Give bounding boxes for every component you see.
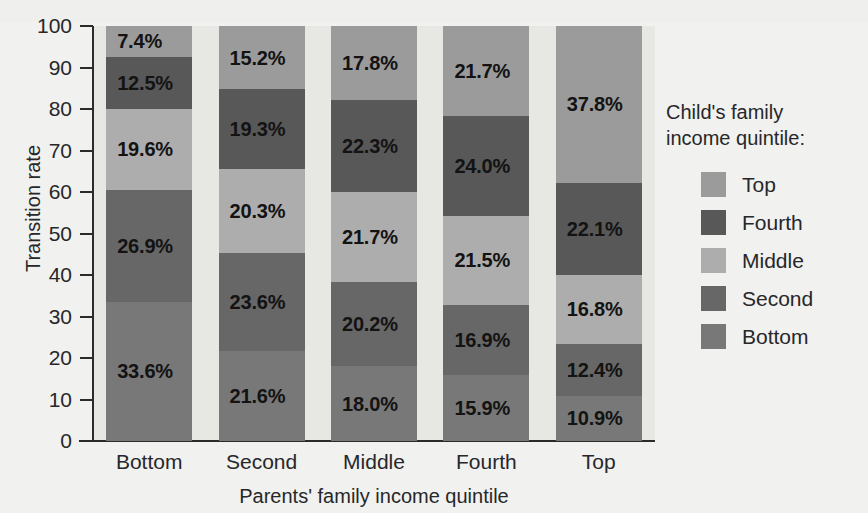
bar-segment-value-label: 22.3% <box>342 135 398 158</box>
x-axis-category-label: Fourth <box>430 450 542 474</box>
y-axis-tick <box>80 440 93 442</box>
bar-segment-value-label: 26.9% <box>117 234 173 257</box>
y-axis-tick <box>80 108 93 110</box>
bar-group: 17.8%22.3%21.7%20.2%18.0% <box>331 26 417 441</box>
y-axis-tick-label-wrap: 90 <box>20 57 72 79</box>
bar-segment-value-label: 12.4% <box>567 359 623 382</box>
y-axis-tick-label: 10 <box>28 389 72 410</box>
bar-segment-value-label: 16.9% <box>454 328 510 351</box>
bar-segment[interactable]: 16.8% <box>556 275 642 345</box>
bar-segment-value-label: 37.8% <box>567 93 623 116</box>
legend-entries: TopFourthMiddleSecondBottom <box>666 165 862 355</box>
y-axis-tick <box>80 67 93 69</box>
x-axis-category-label: Second <box>205 450 317 474</box>
bar-segment[interactable]: 21.6% <box>219 351 305 441</box>
legend-item-label: Fourth <box>742 212 803 233</box>
bar-segment-value-label: 10.9% <box>567 407 623 430</box>
y-axis-tick-label-wrap: 30 <box>20 306 72 328</box>
bar-segment[interactable]: 7.4% <box>106 26 192 57</box>
bar-segment-value-label: 20.3% <box>230 200 286 223</box>
bar-segment-value-label: 24.0% <box>454 154 510 177</box>
bar-segment[interactable]: 15.9% <box>443 375 529 441</box>
y-axis-tick <box>80 25 93 27</box>
bar-segment[interactable]: 17.8% <box>331 26 417 100</box>
y-axis-tick-label-wrap: 0 <box>20 430 72 452</box>
bar-segment-value-label: 12.5% <box>117 71 173 94</box>
bar-segment[interactable]: 21.7% <box>443 26 529 116</box>
legend-item-label: Bottom <box>742 326 809 347</box>
bar-segment-value-label: 22.1% <box>567 217 623 240</box>
y-axis-tick-label-wrap: 100 <box>20 15 72 37</box>
scan-bleed-artifact <box>0 0 868 22</box>
bar-segment[interactable]: 10.9% <box>556 396 642 441</box>
y-axis-tick-label: 20 <box>28 347 72 368</box>
y-axis-tick-label: 30 <box>28 306 72 327</box>
bar-segment-value-label: 20.2% <box>342 313 398 336</box>
bar-segment-value-label: 23.6% <box>230 291 286 314</box>
bar-segment[interactable]: 26.9% <box>106 190 192 302</box>
bar-segment[interactable]: 22.1% <box>556 183 642 275</box>
bar-segment[interactable]: 33.6% <box>106 302 192 441</box>
bar-segment[interactable]: 16.9% <box>443 305 529 375</box>
bar-segment[interactable]: 20.2% <box>331 282 417 366</box>
y-axis-tick <box>80 357 93 359</box>
legend-item[interactable]: Bottom <box>666 317 862 355</box>
bar-segment-value-label: 16.8% <box>567 298 623 321</box>
y-axis-tick-label: 90 <box>28 57 72 78</box>
bar-segment-value-label: 21.7% <box>454 60 510 83</box>
y-axis-tick-label: 0 <box>28 430 72 451</box>
legend-swatch-icon <box>701 210 726 235</box>
legend-item-label: Middle <box>742 250 804 271</box>
y-axis-tick-label: 100 <box>28 15 72 36</box>
x-axis-category-label: Bottom <box>93 450 205 474</box>
legend-item[interactable]: Fourth <box>666 203 862 241</box>
bar-segment-value-label: 7.4% <box>117 30 162 53</box>
bar-segment[interactable]: 37.8% <box>556 26 642 183</box>
bar-segment[interactable]: 20.3% <box>219 169 305 253</box>
bar-segment-value-label: 21.7% <box>342 226 398 249</box>
legend-item-label: Top <box>742 174 776 195</box>
bar-segment[interactable]: 12.4% <box>556 344 642 395</box>
legend-swatch-icon <box>701 172 726 197</box>
stacked-bar[interactable]: 15.2%19.3%20.3%23.6%21.6% <box>219 26 305 441</box>
legend-title: Child's family income quintile: <box>666 100 862 151</box>
bar-group: 37.8%22.1%16.8%12.4%10.9% <box>556 26 642 441</box>
bar-segment-value-label: 15.2% <box>230 46 286 69</box>
bar-segment-value-label: 18.0% <box>342 392 398 415</box>
bar-segment-value-label: 19.6% <box>117 138 173 161</box>
bar-segment-value-label: 17.8% <box>342 51 398 74</box>
bar-segment[interactable]: 23.6% <box>219 253 305 351</box>
stacked-bar[interactable]: 17.8%22.3%21.7%20.2%18.0% <box>331 26 417 441</box>
bar-group: 21.7%24.0%21.5%16.9%15.9% <box>443 26 529 441</box>
chart-figure: 0102030405060708090100 Transition rate 7… <box>0 0 868 513</box>
y-axis-tick-label-wrap: 20 <box>20 347 72 369</box>
y-axis-tick <box>80 399 93 401</box>
bar-segment[interactable]: 22.3% <box>331 100 417 193</box>
stacked-bar[interactable]: 21.7%24.0%21.5%16.9%15.9% <box>443 26 529 441</box>
bar-segment[interactable]: 21.5% <box>443 216 529 305</box>
bar-segment[interactable]: 19.6% <box>106 109 192 190</box>
y-axis-title: Transition rate <box>22 109 45 309</box>
bar-segment[interactable]: 19.3% <box>219 89 305 169</box>
bar-segment-value-label: 15.9% <box>454 396 510 419</box>
legend-item[interactable]: Middle <box>666 241 862 279</box>
x-axis-title: Parents' family income quintile <box>93 485 655 508</box>
bar-segment-value-label: 21.5% <box>454 249 510 272</box>
y-axis-tick <box>80 233 93 235</box>
bar-segment[interactable]: 18.0% <box>331 366 417 441</box>
bar-segment[interactable]: 24.0% <box>443 116 529 216</box>
legend-item[interactable]: Second <box>666 279 862 317</box>
legend-swatch-icon <box>701 286 726 311</box>
bar-segment[interactable]: 15.2% <box>219 26 305 89</box>
legend-swatch-icon <box>701 324 726 349</box>
bar-group: 15.2%19.3%20.3%23.6%21.6% <box>219 26 305 441</box>
bar-segment[interactable]: 21.7% <box>331 192 417 282</box>
bar-segment[interactable]: 12.5% <box>106 57 192 109</box>
y-axis-tick-label-wrap: 10 <box>20 389 72 411</box>
y-axis-tick <box>80 150 93 152</box>
legend-item[interactable]: Top <box>666 165 862 203</box>
legend-item-label: Second <box>742 288 813 309</box>
stacked-bar[interactable]: 7.4%12.5%19.6%26.9%33.6% <box>106 26 192 441</box>
legend-swatch-icon <box>701 248 726 273</box>
stacked-bar[interactable]: 37.8%22.1%16.8%12.4%10.9% <box>556 26 642 441</box>
